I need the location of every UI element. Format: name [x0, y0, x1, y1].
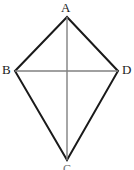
- vertex-label-c: C: [63, 163, 71, 170]
- kite-diagram-svg: [0, 0, 134, 170]
- vertex-label-a: A: [61, 1, 70, 14]
- vertex-label-b: B: [2, 63, 11, 76]
- geometry-figure-kite: A B D C: [0, 0, 134, 170]
- vertex-label-d: D: [122, 63, 131, 76]
